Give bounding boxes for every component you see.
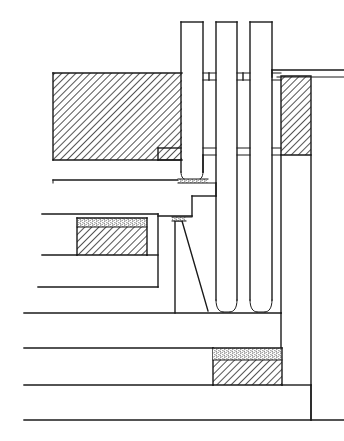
- upper-left-hatched-wall: [53, 73, 182, 160]
- lower-block-stipple-band: [213, 348, 282, 360]
- lower-block-hatch-band: [213, 360, 282, 385]
- section-drawing-svg: [0, 0, 344, 441]
- wedge-base-stipple-pad: [172, 217, 186, 221]
- technical-drawing-canvas: [0, 0, 344, 441]
- mid-left-block-stipple-band: [77, 218, 147, 227]
- mid-left-block: [77, 218, 147, 255]
- mid-left-block-hatch-band: [77, 227, 147, 255]
- lower-block: [213, 348, 282, 385]
- upper-right-hatched-wall: [281, 76, 311, 155]
